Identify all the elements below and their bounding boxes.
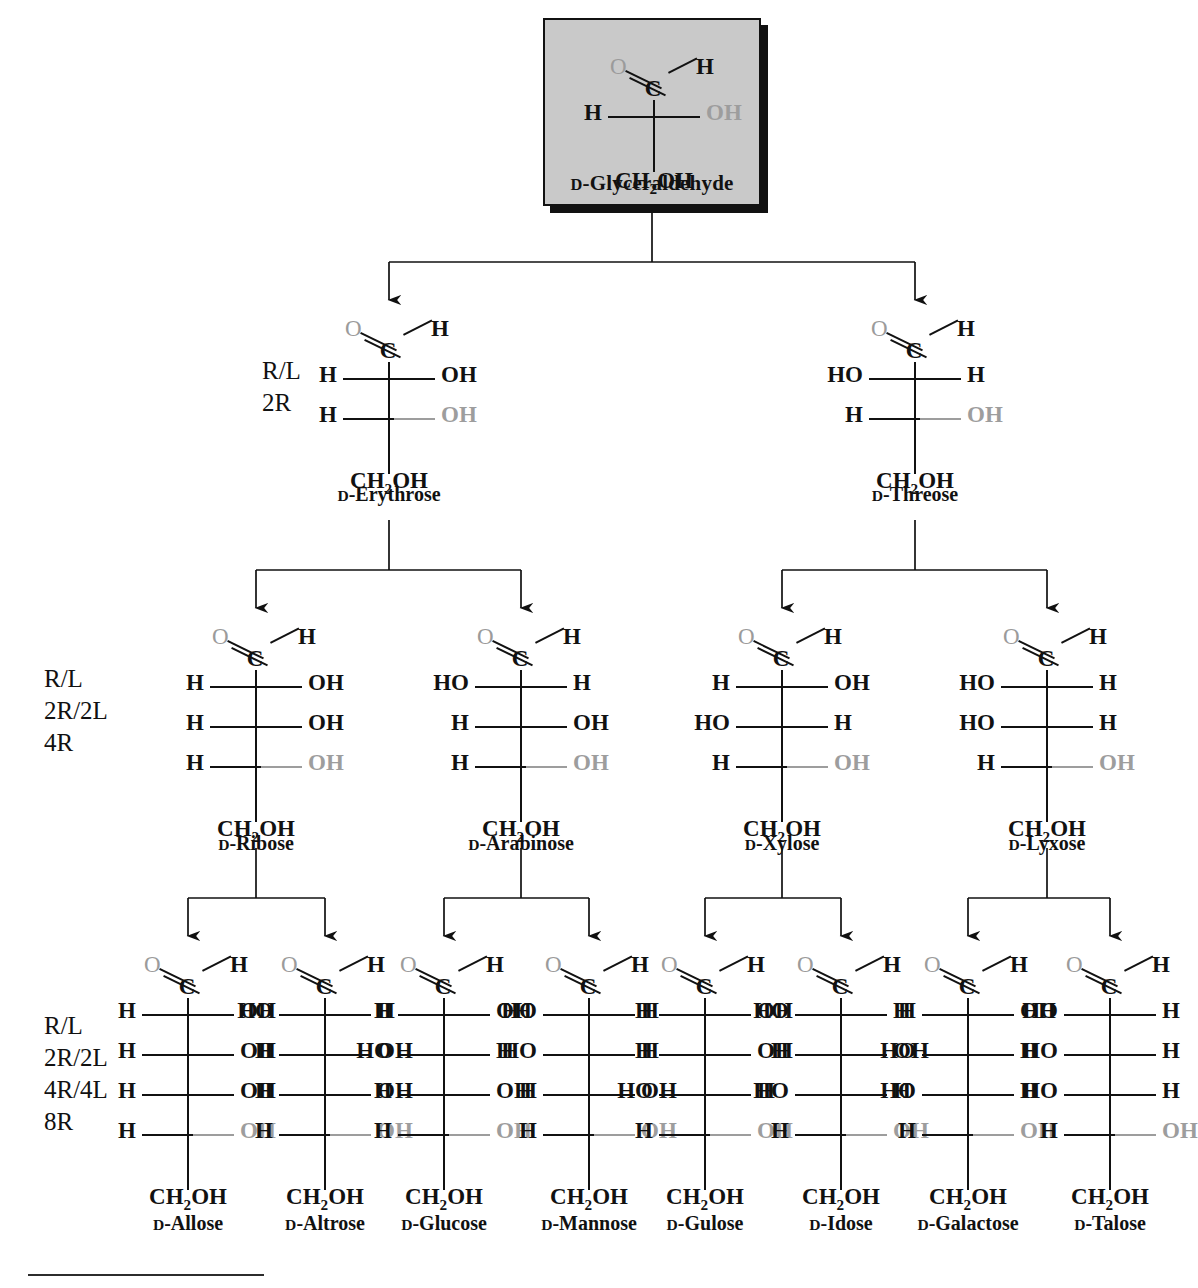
horizontal-bond <box>543 1014 635 1016</box>
substituent-left: H <box>255 1038 273 1064</box>
carbon-hydrogen-bond <box>270 627 299 643</box>
horizontal-bond <box>279 1134 371 1136</box>
carbon-hydrogen-bond <box>1061 627 1090 643</box>
substituent-right-highlighted: OH <box>967 402 1003 428</box>
aldehyde-hydrogen-label: H <box>367 952 385 978</box>
substituent-left: H <box>977 750 995 776</box>
carbon-hydrogen-bond <box>603 955 632 971</box>
substituent-right: H <box>573 670 591 696</box>
carbon-hydrogen-bond <box>796 627 825 643</box>
substituent-right-highlighted: OH <box>834 750 870 776</box>
substituent-right-highlighted: OH <box>308 750 344 776</box>
carbonyl-oxygen-label: O <box>924 952 941 978</box>
horizontal-bond <box>795 1054 887 1056</box>
horizontal-bond <box>475 686 567 688</box>
ch2oh-c: CH <box>149 1184 184 1209</box>
carbon-hydrogen-bond <box>982 955 1011 971</box>
annotation-line: 2R <box>262 387 301 419</box>
terminal-ch2oh: CH2OH <box>149 1184 227 1214</box>
carbonyl-oxygen-label: O <box>610 54 627 80</box>
ch2oh-c: CH <box>802 1184 837 1209</box>
footnote-rule <box>28 1274 264 1276</box>
horizontal-bond <box>1064 1014 1156 1016</box>
ch2oh-oh: OH <box>844 1184 880 1209</box>
root-name-text: -Glyceraldehyde <box>582 171 733 195</box>
carbon-hydrogen-bond <box>403 319 432 335</box>
substituent-right-highlighted: OH <box>441 402 477 428</box>
substituent-left: H <box>374 1118 392 1144</box>
substituent-left: H <box>898 1118 916 1144</box>
substituent-right: H <box>1099 710 1117 736</box>
horizontal-bond <box>795 1094 887 1096</box>
annotation-line: R/L <box>44 1010 108 1042</box>
substituent-right: OH <box>308 710 344 736</box>
carbonyl-oxygen-label: O <box>1003 624 1020 650</box>
substituent-right: H <box>967 362 985 388</box>
terminal-ch2oh: CH2OH <box>929 1184 1007 1214</box>
ch2oh-c: CH <box>1071 1184 1106 1209</box>
carbonyl-oxygen-label: O <box>797 952 814 978</box>
horizontal-bond <box>736 686 828 688</box>
molecule-name-text: -Galactose <box>929 1212 1019 1234</box>
aldehyde-hydrogen-label: H <box>230 952 248 978</box>
carbonyl-carbon-label: C <box>1101 974 1118 1000</box>
horizontal-bond <box>343 378 435 380</box>
ch2oh-subscript: 2 <box>440 1196 448 1213</box>
aldehyde-hydrogen-label: H <box>1152 952 1170 978</box>
horizontal-bond <box>869 418 961 420</box>
aldehyde-hydrogen-label: H <box>824 624 842 650</box>
substituent-right: H <box>1162 1078 1180 1104</box>
d-prefix: D <box>872 487 883 504</box>
carbonyl-oxygen-label: O <box>661 952 678 978</box>
substituent-left: H <box>118 1038 136 1064</box>
horizontal-bond <box>659 1134 751 1136</box>
substituent-left: H <box>118 1118 136 1144</box>
substituent-left: HO <box>753 998 789 1024</box>
horizontal-bond <box>736 726 828 728</box>
horizontal-bond <box>210 686 302 688</box>
substituent-left: H <box>319 362 337 388</box>
substituent-left: H <box>635 1118 653 1144</box>
carbonyl-oxygen-label: O <box>400 952 417 978</box>
substituent-right: OH <box>706 100 742 126</box>
carbonyl-oxygen-label: O <box>345 316 362 342</box>
aldehyde-hydrogen-label: H <box>1089 624 1107 650</box>
horizontal-bond <box>398 1014 490 1016</box>
molecule-name: D-Gulose <box>667 1212 744 1235</box>
annotation-line: R/L <box>44 663 108 695</box>
carbonyl-carbon-label: C <box>645 76 662 102</box>
d-prefix: D <box>1074 1216 1085 1233</box>
carbon-hydrogen-bond <box>855 955 884 971</box>
d-prefix: D <box>1009 836 1020 853</box>
molecule-name: D-Allose <box>153 1212 223 1235</box>
ch2oh-oh: OH <box>191 1184 227 1209</box>
substituent-left: H <box>584 100 602 126</box>
ch2oh-c: CH <box>405 1184 440 1209</box>
molecule-name-text: -Threose <box>883 483 958 505</box>
horizontal-bond <box>659 1094 751 1096</box>
d-prefix: D <box>401 1216 412 1233</box>
horizontal-bond <box>608 116 700 118</box>
substituent-left: H <box>255 1118 273 1144</box>
substituent-left: HO <box>959 670 995 696</box>
terminal-ch2oh: CH2OH <box>286 1184 364 1214</box>
terminal-ch2oh: CH2OH <box>666 1184 744 1214</box>
carbonyl-carbon-label: C <box>247 646 264 672</box>
horizontal-bond <box>210 766 302 768</box>
substituent-left: HO <box>356 1038 392 1064</box>
molecule-name-text: -Mannose <box>552 1212 636 1234</box>
ch2oh-subscript: 2 <box>321 1196 329 1213</box>
molecule-name: D-Glucose <box>401 1212 487 1235</box>
carbon-backbone <box>1046 670 1048 822</box>
terminal-ch2oh: CH2OH <box>550 1184 628 1214</box>
substituent-left: H <box>255 1078 273 1104</box>
substituent-right: H <box>834 710 852 736</box>
substituent-left: H <box>451 710 469 736</box>
molecule-name-text: -Gulose <box>678 1212 744 1234</box>
ch2oh-subscript: 2 <box>585 1196 593 1213</box>
horizontal-bond <box>922 1014 1014 1016</box>
horizontal-bond <box>795 1014 887 1016</box>
molecule-name: D-Threose <box>872 483 958 506</box>
substituent-left: HO <box>959 710 995 736</box>
